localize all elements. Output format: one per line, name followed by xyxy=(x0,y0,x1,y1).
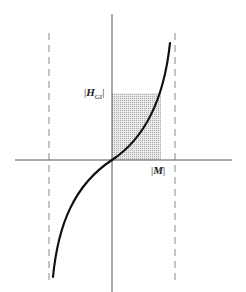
label-m: |M| xyxy=(151,164,165,176)
shaded-area xyxy=(112,93,161,160)
label-h-gi: |HGI| xyxy=(84,86,104,101)
diagram-canvas xyxy=(0,0,246,292)
